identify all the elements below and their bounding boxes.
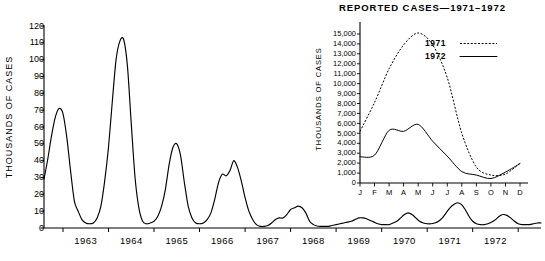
inset-series-1972 xyxy=(360,124,520,178)
inset-plot-svg xyxy=(0,0,545,261)
chart-canvas: THOUSANDS OF CASES 120110100908070605040… xyxy=(0,0,545,261)
inset-series-1971 xyxy=(360,33,520,176)
